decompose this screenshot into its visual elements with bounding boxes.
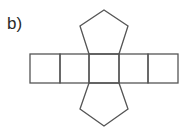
bottom-pentagon (80, 83, 128, 126)
rectangle-face-4 (119, 54, 148, 83)
rectangle-face-1 (30, 54, 60, 83)
prism-net-diagram (0, 0, 193, 127)
rectangle-face-5 (148, 54, 178, 83)
rectangle-face-3 (89, 54, 119, 83)
top-pentagon (80, 10, 128, 54)
rectangle-face-2 (60, 54, 89, 83)
rectangle-strip (30, 54, 178, 83)
